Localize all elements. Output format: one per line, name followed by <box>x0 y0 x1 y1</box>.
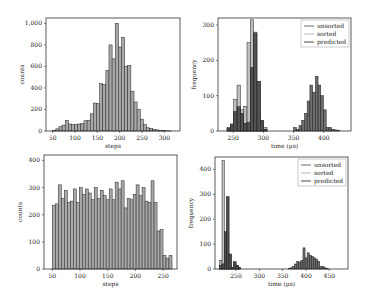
chart-top-right: 2503003504000100200300time (μs)frequency… <box>190 18 351 150</box>
histogram-bar <box>136 185 139 269</box>
histogram-bar <box>90 114 93 131</box>
histogram-bar <box>115 23 118 131</box>
histogram-bar <box>224 232 226 269</box>
y-tick-label: 300 <box>29 184 41 191</box>
histogram-bar <box>76 203 79 270</box>
histogram-bar <box>88 193 91 269</box>
histogram-bar <box>150 128 153 131</box>
histogram-bar <box>100 190 103 269</box>
histogram-bar <box>305 258 307 269</box>
histogram-bar <box>73 189 76 269</box>
y-tick-label: 1,000 <box>25 19 42 26</box>
histogram-bar <box>94 188 97 269</box>
histogram-bar <box>151 181 154 269</box>
histogram-bar <box>229 254 231 269</box>
histogram-bar <box>128 65 131 131</box>
histogram-bar <box>227 128 230 131</box>
legend-label: sorted <box>317 30 337 37</box>
histogram-bar <box>79 188 82 269</box>
histogram-bar <box>237 108 240 131</box>
histogram-bar <box>65 120 68 131</box>
histogram-bar <box>124 208 127 269</box>
histogram-bar <box>230 125 233 131</box>
x-tick-label: 50 <box>48 272 56 279</box>
x-tick-label: 150 <box>92 134 104 141</box>
histogram-bar <box>127 198 130 269</box>
histogram-bar <box>133 194 136 269</box>
legend-label: unsorted <box>314 161 341 168</box>
histogram-bar <box>220 265 222 269</box>
histogram-bar <box>130 200 133 269</box>
y-tick-label: 300 <box>203 21 215 28</box>
histogram-bar <box>100 84 103 131</box>
y-axis-label: frequency <box>187 197 195 228</box>
histogram-bar <box>137 109 140 131</box>
y-tick-label: 0 <box>38 127 42 134</box>
histogram-bar <box>234 112 237 131</box>
histogram-bar <box>103 196 106 269</box>
histogram-bar <box>131 91 134 131</box>
histogram-bar <box>299 262 301 269</box>
x-tick-label: 400 <box>300 272 312 279</box>
histogram-bar <box>160 230 163 269</box>
histogram-bar <box>142 188 145 269</box>
histogram-bar <box>87 120 90 131</box>
histogram-bar <box>154 203 157 270</box>
histogram-bar <box>64 190 67 269</box>
histogram-bar <box>222 161 224 269</box>
histogram-bar <box>157 231 160 269</box>
histogram-bar <box>318 85 321 131</box>
histogram-bar <box>250 67 253 131</box>
x-tick-label: 200 <box>114 134 126 141</box>
histogram-bar <box>240 114 243 131</box>
x-tick-label: 350 <box>288 134 300 141</box>
x-axis-label: steps <box>105 142 121 150</box>
y-tick-label: 600 <box>31 62 43 69</box>
y-tick-label: 400 <box>31 84 43 91</box>
y-tick-label: 300 <box>200 190 212 197</box>
histogram-bar <box>309 255 311 269</box>
histogram-bar <box>247 43 250 131</box>
histogram-bar <box>294 127 297 131</box>
histogram-bar <box>222 264 224 269</box>
x-tick-label: 400 <box>318 134 330 141</box>
histogram-bar <box>85 189 88 269</box>
chart-bottom-right: 2503003504004500100200300400time (μs)fre… <box>187 157 348 288</box>
histogram-bar <box>323 110 326 131</box>
histogram-bar <box>68 124 71 131</box>
histogram-bar <box>109 45 112 131</box>
y-tick-label: 400 <box>29 156 41 163</box>
histogram-bar <box>257 82 260 131</box>
histogram-bar <box>106 200 109 269</box>
x-tick-label: 250 <box>157 272 169 279</box>
histogram-bar <box>311 257 313 269</box>
histogram-bar <box>303 248 305 269</box>
histogram-bar <box>71 125 74 131</box>
histogram-bar <box>329 127 332 131</box>
y-tick-label: 200 <box>31 105 43 112</box>
legend-label: predicted <box>317 38 346 46</box>
histogram-bar <box>315 76 318 131</box>
y-tick-label: 200 <box>29 211 41 218</box>
histogram-bar <box>52 205 55 269</box>
x-tick-label: 200 <box>130 272 142 279</box>
x-tick-label: 100 <box>74 272 86 279</box>
histogram-bar <box>55 204 58 269</box>
y-tick-label: 100 <box>200 240 212 247</box>
histogram-bar <box>247 122 250 131</box>
histogram-bar <box>67 203 70 270</box>
histogram-bar <box>321 96 324 131</box>
x-axis-label: time (μs) <box>268 280 295 288</box>
histogram-bar <box>93 103 96 131</box>
histogram-bar <box>81 123 84 131</box>
histogram-bar <box>97 198 100 269</box>
x-tick-label: 300 <box>254 272 266 279</box>
y-tick-label: 200 <box>203 56 215 63</box>
legend: unsortedsortedpredicted <box>298 159 346 186</box>
x-tick-label: 50 <box>49 134 57 141</box>
histogram-bar <box>302 120 305 131</box>
histogram-bar <box>310 85 313 131</box>
legend-label: sorted <box>314 169 334 176</box>
y-axis-label: counts <box>18 64 25 84</box>
y-tick-label: 200 <box>200 215 212 222</box>
